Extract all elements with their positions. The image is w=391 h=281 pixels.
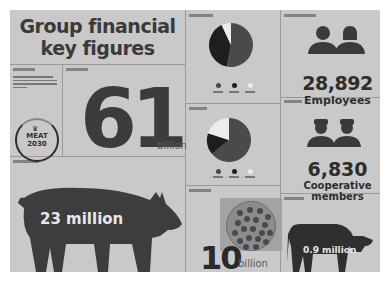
section-label [189, 14, 213, 17]
meatball [235, 220, 241, 226]
meat-2030-badge: ♛ MEAT 2030 [15, 118, 59, 162]
title-line-1: Group financial [10, 15, 185, 37]
meatball [267, 230, 273, 236]
employee-label: Employees [295, 94, 380, 107]
section-label [13, 68, 35, 71]
legend-label [245, 176, 255, 178]
meatball [246, 235, 252, 241]
pie-chart-share-1 [208, 22, 254, 68]
legend-label [213, 91, 223, 93]
meatball-unit: billion [238, 258, 268, 269]
page-title: Group financial key figures [10, 15, 185, 59]
legend-dot [232, 83, 237, 88]
farmers-icon [303, 117, 365, 147]
section-label [189, 189, 211, 192]
meatball [255, 236, 261, 242]
employee-count: 28,892 [295, 72, 380, 94]
section-label [189, 107, 207, 110]
meatball [247, 207, 253, 213]
meatball [259, 230, 265, 236]
legend-dot [216, 83, 221, 88]
meatball-value: 10 [200, 242, 241, 272]
legend-dot [248, 83, 253, 88]
meatball [241, 226, 247, 232]
meatball [253, 217, 259, 223]
badge-line-1: MEAT [17, 132, 57, 140]
cooperative-label: Cooperative members [295, 180, 380, 202]
meatball [253, 244, 259, 250]
meatball [232, 230, 238, 236]
pie-chart-share-2 [206, 117, 252, 163]
meatball [265, 214, 271, 220]
legend-dot [248, 169, 253, 174]
revenue-unit: billion [157, 140, 187, 151]
legend-dot [216, 169, 221, 174]
cooperative-count: 6,830 [295, 158, 380, 180]
sustainability-text [13, 76, 57, 90]
legend-label [245, 91, 255, 93]
badge-line-2: 2030 [17, 140, 57, 148]
cattle-count: 0.9 million [303, 245, 356, 255]
meatball [263, 239, 269, 245]
cooperative-label-line-1: Cooperative [295, 180, 380, 191]
meatball [257, 208, 263, 214]
meatball [250, 226, 256, 232]
infographic-poster: Group financial key figures ♛ MEAT 2030 … [10, 10, 380, 272]
legend-label [229, 176, 239, 178]
cooperative-label-line-2: members [295, 191, 380, 202]
meatball [244, 216, 250, 222]
divider [185, 185, 280, 186]
section-label [284, 14, 316, 17]
divider [185, 103, 280, 104]
pig-count: 23 million [40, 210, 123, 228]
people-icon [305, 24, 367, 54]
meatball [243, 244, 249, 250]
meatball [237, 210, 243, 216]
title-line-2: key figures [10, 37, 185, 59]
legend-dot [232, 169, 237, 174]
meatball [262, 222, 268, 228]
divider [10, 64, 185, 65]
legend-label [229, 91, 239, 93]
legend-label [213, 176, 223, 178]
divider [62, 64, 63, 156]
